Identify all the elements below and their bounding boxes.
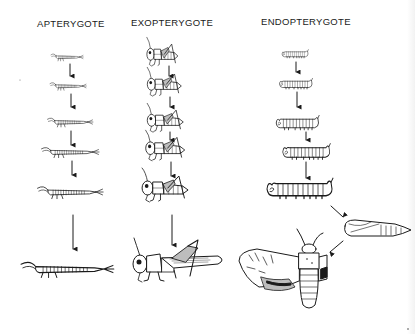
speck (407, 328, 409, 330)
apterygote-stage-2 (50, 83, 86, 91)
exopterygote-nymph-2 (147, 67, 181, 96)
endopterygote-larva-5 (267, 178, 333, 198)
exopterygote-nymph-5 (142, 168, 188, 202)
endopterygote-pupa (345, 220, 411, 236)
exopterygote-adult (133, 238, 222, 282)
arrow-diagonal-to-pupa (331, 206, 343, 217)
endopterygote-larva-3 (276, 115, 319, 129)
exopterygote-nymph-3 (147, 103, 183, 132)
endopterygote-larva-4 (283, 144, 331, 160)
arrow-diagonal-to-adult (330, 241, 343, 252)
apterygote-stage-1 (51, 54, 83, 61)
endopterygote-larva-1 (282, 50, 308, 58)
apterygote-adult (21, 262, 114, 277)
speck (19, 79, 20, 80)
development-diagram (0, 0, 415, 334)
endopterygote-larva-2 (280, 78, 313, 89)
endopterygote-adult-moth (239, 229, 327, 308)
exopterygote-nymph-4 (146, 130, 185, 161)
apterygote-stage-4 (42, 148, 100, 158)
exopterygote-nymph-1 (147, 37, 178, 66)
apterygote-stage-3 (48, 118, 93, 127)
apterygote-stage-5 (38, 187, 104, 199)
